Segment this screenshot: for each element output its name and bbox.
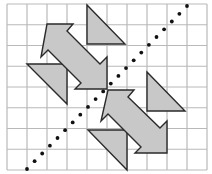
mirror-line-dot bbox=[101, 90, 105, 94]
mirror-line-dot bbox=[63, 128, 67, 132]
mirror-line-dot bbox=[40, 152, 44, 156]
mirror-line-dot bbox=[71, 121, 75, 125]
triangle-right bbox=[147, 72, 185, 111]
mirror-line-dot bbox=[155, 35, 159, 39]
mirror-line-dot bbox=[147, 43, 151, 47]
mirror-line-dot bbox=[162, 27, 166, 31]
mirror-line-dot bbox=[170, 20, 174, 24]
mirror-line-dot bbox=[78, 113, 82, 117]
mirror-line-dot bbox=[48, 144, 52, 148]
symmetry-grid-figure bbox=[0, 0, 212, 174]
mirror-line-dot bbox=[124, 66, 128, 70]
mirror-line-dot bbox=[25, 167, 29, 171]
mirror-line-dot bbox=[94, 97, 98, 101]
mirror-line-dot bbox=[185, 4, 189, 8]
mirror-line-dot bbox=[178, 12, 182, 16]
mirror-line-dot bbox=[139, 51, 143, 55]
mirror-line-dot bbox=[56, 136, 60, 140]
mirror-line-dot bbox=[33, 159, 37, 163]
mirror-line-dot bbox=[86, 105, 90, 109]
mirror-line-dot bbox=[109, 82, 113, 86]
mirror-line-dot bbox=[117, 74, 121, 78]
mirror-line-dot bbox=[132, 58, 136, 62]
